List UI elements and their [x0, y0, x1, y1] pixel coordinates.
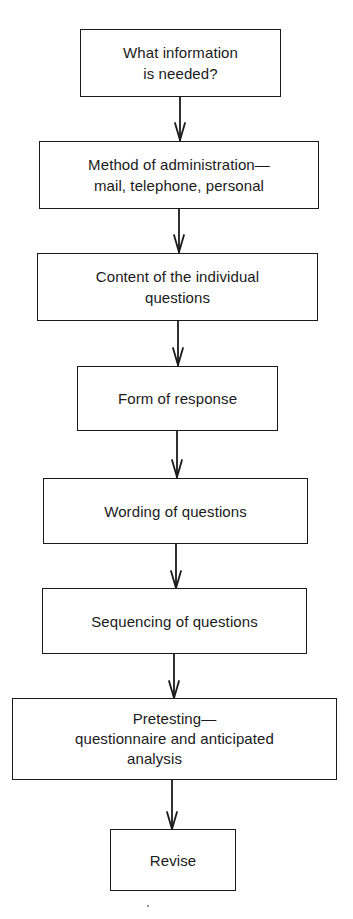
step-form-of-response: Form of response	[77, 366, 278, 431]
step-label-line: Content of the individual	[96, 266, 259, 287]
step-label-line: analysis	[127, 749, 182, 769]
step-pretesting: Pretesting— questionnaire and anticipate…	[12, 698, 337, 780]
step-label-line: questions	[145, 287, 210, 308]
step-label-line: Sequencing of questions	[91, 611, 258, 632]
step-label-line: questionnaire and anticipated	[75, 729, 274, 749]
arrow-down-icon	[172, 430, 182, 478]
step-label-line: What information	[123, 42, 238, 63]
step-revise: Revise	[110, 829, 236, 891]
arrow-down-icon	[167, 779, 177, 830]
step-sequencing-of-questions: Sequencing of questions	[42, 588, 307, 654]
arrow-down-icon	[173, 320, 183, 366]
arrow-down-icon	[175, 96, 185, 141]
step-label-line: Revise	[150, 850, 196, 871]
step-label-line: Form of response	[118, 388, 237, 409]
arrow-down-icon	[169, 653, 179, 699]
step-label-line: Method of administration—	[88, 154, 270, 175]
flow-connectors	[0, 0, 353, 919]
step-label-line: is needed?	[143, 63, 217, 84]
step-label-line: mail, telephone, personal	[94, 175, 264, 196]
arrow-down-icon	[171, 543, 181, 589]
step-label-line: Pretesting—	[133, 709, 217, 729]
step-wording-of-questions: Wording of questions	[43, 478, 308, 544]
step-content-of-questions: Content of the individual questions	[37, 253, 318, 321]
step-method-of-administration: Method of administration— mail, telephon…	[39, 141, 319, 209]
arrow-down-icon	[174, 208, 184, 253]
step-label-line: Wording of questions	[104, 501, 247, 522]
step-what-information-needed: What information is needed?	[80, 29, 281, 97]
scan-speck	[147, 905, 149, 907]
